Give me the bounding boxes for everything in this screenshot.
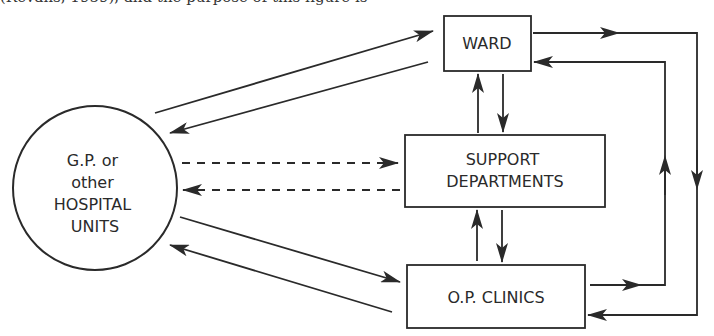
- support-label: SUPPORT DEPARTMENTS: [446, 150, 564, 191]
- op-clinics-label: O.P. CLINICS: [447, 288, 544, 307]
- arrow-gp-to-op-clinics: [180, 217, 400, 282]
- gp-label: G.P. or other HOSPITAL UNITS: [54, 151, 137, 236]
- arrow-op-clinics-to-gp: [170, 245, 392, 312]
- support-node-box: [405, 135, 605, 207]
- flow-diagram: G.P. or other HOSPITAL UNITS WARD SUPPOR…: [0, 0, 714, 336]
- ward-label: WARD: [462, 34, 511, 53]
